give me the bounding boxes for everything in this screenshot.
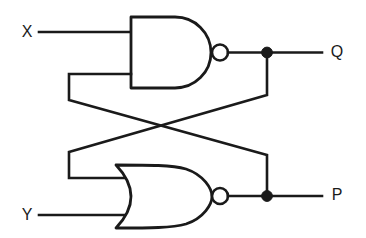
label-output-q: Q: [331, 43, 343, 60]
logic-circuit-diagram: X Y Q P: [0, 0, 366, 238]
label-input-x: X: [22, 23, 33, 40]
nor-output-bubble-icon: [212, 188, 228, 204]
nor-gate-body: [116, 165, 212, 228]
label-output-p: P: [332, 186, 343, 203]
nand-gate-body: [131, 17, 211, 88]
circuit-canvas: X Y Q P: [0, 0, 366, 238]
label-input-y: Y: [22, 206, 33, 223]
junction-q: [262, 47, 273, 58]
junction-p: [262, 191, 273, 202]
nand-output-bubble-icon: [212, 45, 228, 61]
